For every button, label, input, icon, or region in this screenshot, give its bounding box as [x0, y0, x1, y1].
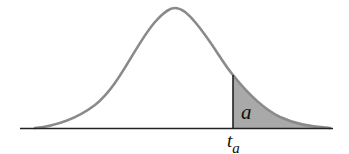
t-distribution-diagram: a ta [0, 0, 349, 154]
critical-value-subscript: a [232, 140, 240, 154]
area-label: a [241, 100, 252, 124]
density-curve [35, 8, 330, 128]
critical-value-label: ta [227, 130, 240, 154]
